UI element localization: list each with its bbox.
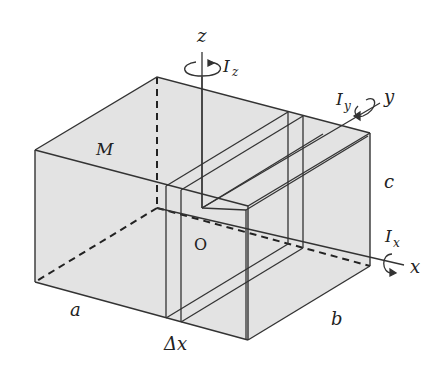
edge-c-label: c <box>384 171 394 192</box>
moment-z-label: I <box>222 56 230 76</box>
edge-b-label: b <box>331 308 343 329</box>
moment-x-subscript: x <box>393 236 400 250</box>
slab-width-label: Δx <box>163 333 187 354</box>
mass-label: M <box>95 139 114 159</box>
moment-y-label: I <box>335 89 343 109</box>
cuboid-diagram: z I z I y y I x x M O c a b Δx <box>0 0 446 372</box>
axis-x-label: x <box>410 256 420 277</box>
moment-x-label: I <box>384 226 392 246</box>
moment-y-subscript: y <box>343 99 351 113</box>
moment-z-subscript: z <box>231 65 239 79</box>
edge-a-label: a <box>70 299 81 320</box>
axis-z-label: z <box>196 25 207 46</box>
origin-label: O <box>194 235 207 254</box>
axis-y-label: y <box>383 86 395 107</box>
